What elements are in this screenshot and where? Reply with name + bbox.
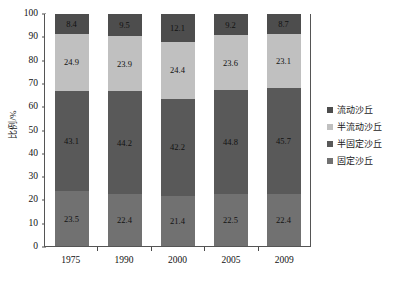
bar-value-label: 21.4 [161, 217, 195, 226]
x-tick-mark [258, 247, 259, 251]
y-tick-label: 40 [29, 149, 39, 159]
legend-label: 固定沙丘 [337, 157, 373, 166]
y-tick-label: 90 [29, 33, 39, 43]
bar-segment: 23.9 [108, 36, 142, 91]
bar-value-label: 23.9 [108, 60, 142, 69]
stacked-bar-chart: 比例/% 0102030405060708090100 8.424.943.12… [0, 0, 409, 290]
bar-segment: 24.9 [55, 34, 89, 92]
legend-label: 半固定沙丘 [337, 140, 382, 149]
bar-segment: 8.4 [55, 14, 89, 34]
x-tick-label: 1990 [115, 255, 134, 265]
y-tick-label: 20 [29, 196, 39, 206]
bar-value-label: 22.5 [214, 216, 248, 225]
bar-value-label: 42.2 [161, 143, 195, 152]
y-tick-label: 30 [29, 172, 39, 182]
bars-layer: 8.424.943.123.59.523.944.222.412.124.442… [45, 14, 310, 246]
bar-column: 12.124.442.221.4 [161, 14, 195, 246]
legend-label: 半流动沙丘 [337, 123, 382, 132]
y-tick-label: 10 [29, 219, 39, 229]
bar-segment: 9.2 [214, 14, 248, 35]
bar-segment: 22.5 [214, 194, 248, 246]
bar-column: 8.723.145.722.4 [267, 14, 301, 246]
y-axis-ticks: 0102030405060708090100 [12, 14, 38, 247]
bar-value-label: 9.5 [108, 21, 142, 30]
bar-segment: 8.7 [267, 14, 301, 34]
legend-item[interactable]: 半固定沙丘 [327, 138, 409, 150]
x-axis-ticks: 19751990200020052009 [44, 247, 311, 273]
bar-segment: 22.4 [267, 194, 301, 246]
y-tick-label: 60 [29, 102, 39, 112]
legend-item[interactable]: 半流动沙丘 [327, 121, 409, 133]
bar-segment: 23.5 [55, 191, 89, 246]
bar-value-label: 45.7 [267, 137, 301, 146]
bar-segment: 12.1 [161, 14, 195, 42]
bar-value-label: 9.2 [214, 20, 248, 29]
bar-segment: 24.4 [161, 42, 195, 99]
y-tick-label: 100 [24, 9, 38, 19]
legend-swatch-icon [327, 124, 333, 130]
bar-column: 8.424.943.123.5 [55, 14, 89, 246]
bar-value-label: 23.1 [267, 57, 301, 66]
bar-value-label: 22.4 [108, 216, 142, 225]
x-tick-mark [97, 247, 98, 251]
bar-value-label: 23.5 [55, 214, 89, 223]
bar-value-label: 24.9 [55, 58, 89, 67]
x-tick-label: 1975 [61, 255, 80, 265]
y-tick-label: 0 [33, 242, 38, 252]
legend-swatch-icon [327, 107, 333, 113]
legend-item[interactable]: 固定沙丘 [327, 155, 409, 167]
legend-swatch-icon [327, 158, 333, 164]
bar-segment: 9.5 [108, 14, 142, 36]
bar-segment: 22.4 [108, 194, 142, 246]
plot-area: 8.424.943.123.59.523.944.222.412.124.442… [44, 14, 311, 247]
bar-segment: 21.4 [161, 196, 195, 246]
bar-value-label: 23.6 [214, 58, 248, 67]
bar-value-label: 8.7 [267, 20, 301, 29]
bar-value-label: 12.1 [161, 24, 195, 33]
x-tick-label: 2000 [168, 255, 187, 265]
bar-value-label: 24.4 [161, 66, 195, 75]
y-tick-label: 80 [29, 56, 39, 66]
bar-value-label: 44.2 [108, 139, 142, 148]
bar-segment: 23.1 [267, 34, 301, 88]
bar-segment: 44.2 [108, 91, 142, 194]
bar-value-label: 22.4 [267, 216, 301, 225]
x-tick-label: 2009 [275, 255, 294, 265]
chart-legend: 流动沙丘半流动沙丘半固定沙丘固定沙丘 [327, 104, 409, 172]
legend-label: 流动沙丘 [337, 106, 373, 115]
bar-column: 9.223.644.822.5 [214, 14, 248, 246]
bar-column: 9.523.944.222.4 [108, 14, 142, 246]
bar-segment: 23.6 [214, 35, 248, 90]
x-tick-mark [204, 247, 205, 251]
legend-item[interactable]: 流动沙丘 [327, 104, 409, 116]
legend-swatch-icon [327, 141, 333, 147]
y-tick-label: 50 [29, 126, 39, 136]
bar-value-label: 43.1 [55, 137, 89, 146]
y-tick-label: 70 [29, 79, 39, 89]
x-tick-label: 2005 [221, 255, 240, 265]
x-tick-mark [151, 247, 152, 251]
bar-segment: 44.8 [214, 90, 248, 194]
bar-segment: 43.1 [55, 91, 89, 191]
bar-value-label: 44.8 [214, 138, 248, 147]
bar-segment: 45.7 [267, 88, 301, 194]
bar-value-label: 8.4 [55, 20, 89, 29]
bar-segment: 42.2 [161, 99, 195, 197]
